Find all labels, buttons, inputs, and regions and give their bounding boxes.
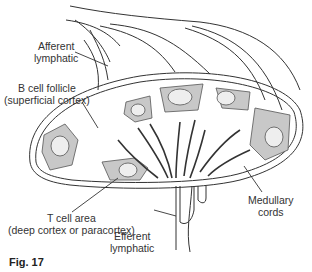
- figure-caption: Fig. 17: [9, 256, 44, 268]
- medullary-line1: Medullary: [248, 194, 294, 206]
- medullary-line2: cords: [248, 206, 294, 218]
- efferent-vessel: [176, 186, 206, 252]
- efferent-line2: lymphatic: [110, 242, 154, 254]
- b-cell-line1: B cell follicle: [4, 82, 90, 94]
- efferent-line1: Efferent: [110, 230, 154, 242]
- medullary-cords-label: Medullary cords: [248, 194, 294, 218]
- afferent-line1: Afferent: [34, 40, 78, 52]
- afferent-line2: lymphatic: [34, 52, 78, 64]
- b-cell-follicle-label: B cell follicle (superficial cortex): [4, 82, 90, 106]
- afferent-lymphatic-label: Afferent lymphatic: [34, 40, 78, 64]
- efferent-lymphatic-label: Efferent lymphatic: [110, 230, 154, 254]
- b-cell-line2: (superficial cortex): [4, 94, 90, 106]
- t-cell-line1: T cell area: [8, 212, 135, 224]
